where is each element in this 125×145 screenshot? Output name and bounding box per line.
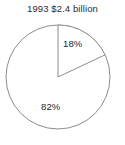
- pie-slice-label-0: 18%: [63, 38, 82, 49]
- pie-slice-label-1: 82%: [41, 101, 60, 112]
- pie-chart-figure: 1993 $2.4 billion 18% 82%: [0, 0, 125, 145]
- pie-chart-graphic: [0, 0, 125, 145]
